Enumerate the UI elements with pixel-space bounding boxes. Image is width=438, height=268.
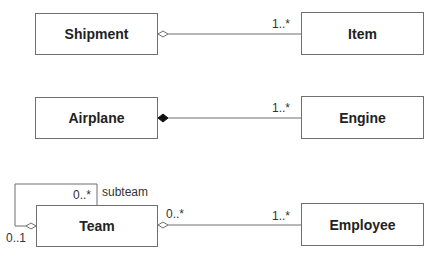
class-employee[interactable]: Employee (301, 203, 424, 246)
multiplicity-label: 0..* (73, 189, 91, 201)
multiplicity-label: 1..* (272, 210, 290, 222)
class-engine[interactable]: Engine (301, 96, 424, 139)
aggregation-diamond-icon (158, 222, 168, 228)
multiplicity-label: 0..* (166, 208, 184, 220)
class-name: Team (79, 218, 115, 234)
class-name: Shipment (65, 26, 129, 42)
class-name: Engine (339, 110, 386, 126)
multiplicity-label: 0..1 (6, 232, 26, 244)
class-shipment[interactable]: Shipment (35, 13, 158, 55)
class-airplane[interactable]: Airplane (35, 97, 158, 139)
class-name: Item (348, 26, 377, 42)
role-label: subteam (102, 186, 148, 198)
class-name: Employee (329, 217, 395, 233)
composition-diamond-icon (158, 114, 168, 122)
class-team[interactable]: Team (36, 205, 158, 247)
multiplicity-label: 1..* (272, 102, 290, 114)
class-item[interactable]: Item (301, 12, 424, 55)
aggregation-diamond-icon (26, 223, 36, 229)
class-name: Airplane (68, 110, 124, 126)
multiplicity-label: 1..* (272, 18, 290, 30)
aggregation-diamond-icon (158, 31, 168, 37)
